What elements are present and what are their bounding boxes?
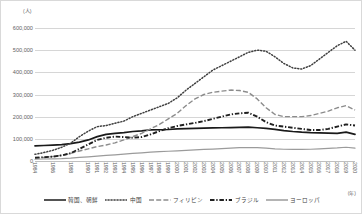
y-axis-tick-label: 500,000	[13, 47, 33, 53]
x-axis-tick-label: 1997	[148, 162, 154, 173]
series-line-ヨーロッパ	[35, 147, 355, 159]
x-axis-tick-label: 1999	[165, 162, 171, 173]
y-axis-tick-label: 200,000	[13, 114, 33, 120]
x-axis-tick-label: 2016	[316, 162, 322, 173]
legend-label: フィリピン	[173, 196, 203, 204]
legend-swatch-europe	[266, 197, 288, 203]
x-axis-tick-label: 2019	[343, 162, 349, 173]
series-line-中国	[35, 41, 355, 154]
x-axis-tick-label: 2009	[254, 162, 260, 173]
x-axis-tick-label: 2005	[219, 162, 225, 173]
x-axis-tick-label: 2015	[308, 162, 314, 173]
x-axis-tick-label: 1992	[103, 162, 109, 173]
y-axis-tick-label: 100,000	[13, 136, 33, 142]
legend-swatch-philippines	[149, 197, 171, 203]
x-axis-tick-label: 2011	[272, 162, 278, 173]
legend-item-brazil[interactable]: ブラジル	[210, 196, 259, 204]
x-axis-tick-label: 2004	[210, 162, 216, 173]
legend-item-europe[interactable]: ヨーロッパ	[266, 196, 321, 204]
x-axis-tick-label: 1986	[50, 162, 56, 173]
x-axis-tick-label: 2001	[183, 162, 189, 173]
chart-legend: 韓国、朝鮮中国フィリピンブラジルヨーロッパ	[1, 193, 362, 207]
x-axis-tick-labels: 1984198619881990199119921993199419951996…	[35, 162, 355, 190]
x-axis-tick-label: 2012	[281, 162, 287, 173]
data-lines	[35, 28, 355, 161]
legend-item-china[interactable]: 中国	[105, 196, 142, 204]
x-axis-tick-label: 1996	[139, 162, 145, 173]
x-axis-tick-label: 1995	[130, 162, 136, 173]
x-axis-tick-label: 1994	[121, 162, 127, 173]
legend-label: 韓国、朝鮮	[68, 196, 98, 204]
x-axis-tick-label: 2017	[325, 162, 331, 173]
x-axis-tick-label: 2003	[201, 162, 207, 173]
x-axis-tick-label: 2018	[334, 162, 340, 173]
x-axis-tick-label: 1998	[156, 162, 162, 173]
legend-label: ヨーロッパ	[290, 196, 320, 204]
series-line-フィリピン	[35, 90, 355, 158]
legend-swatch-korea	[44, 197, 66, 203]
x-axis-tick-label: 2008	[245, 162, 251, 173]
x-axis-tick-label: 1988	[68, 162, 74, 173]
x-axis-tick-label: 1990	[85, 162, 91, 173]
y-axis-tick-label: 600,000	[13, 25, 33, 31]
legend-label: 中国	[130, 196, 142, 204]
chart-container: (人) 600,000500,000400,000300,000200,0001…	[0, 0, 362, 214]
legend-swatch-china	[105, 197, 127, 203]
x-axis-tick-label: 2007	[236, 162, 242, 173]
x-axis-tick-label: 1993	[112, 162, 118, 173]
x-axis-tick-label: 1984	[32, 162, 38, 173]
x-axis-tick-label: 1991	[94, 162, 100, 173]
plot-area	[35, 28, 355, 161]
x-axis-tick-label: 2020	[352, 162, 358, 173]
x-axis-tick-label: 2014	[299, 162, 305, 173]
x-axis-tick-label: 2000	[174, 162, 180, 173]
legend-swatch-brazil	[210, 197, 232, 203]
legend-label: ブラジル	[235, 196, 259, 204]
x-axis-tick-label: 2002	[192, 162, 198, 173]
legend-item-philippines[interactable]: フィリピン	[149, 196, 204, 204]
legend-item-korea[interactable]: 韓国、朝鮮	[44, 196, 99, 204]
y-axis-tick-labels: 600,000500,000400,000300,000200,000100,0…	[1, 1, 35, 214]
y-axis-tick-label: 300,000	[13, 92, 33, 98]
x-axis-tick-label: 2010	[263, 162, 269, 173]
y-axis-tick-label: 400,000	[13, 69, 33, 75]
x-axis-tick-label: 2013	[290, 162, 296, 173]
x-axis-tick-label: 2006	[228, 162, 234, 173]
